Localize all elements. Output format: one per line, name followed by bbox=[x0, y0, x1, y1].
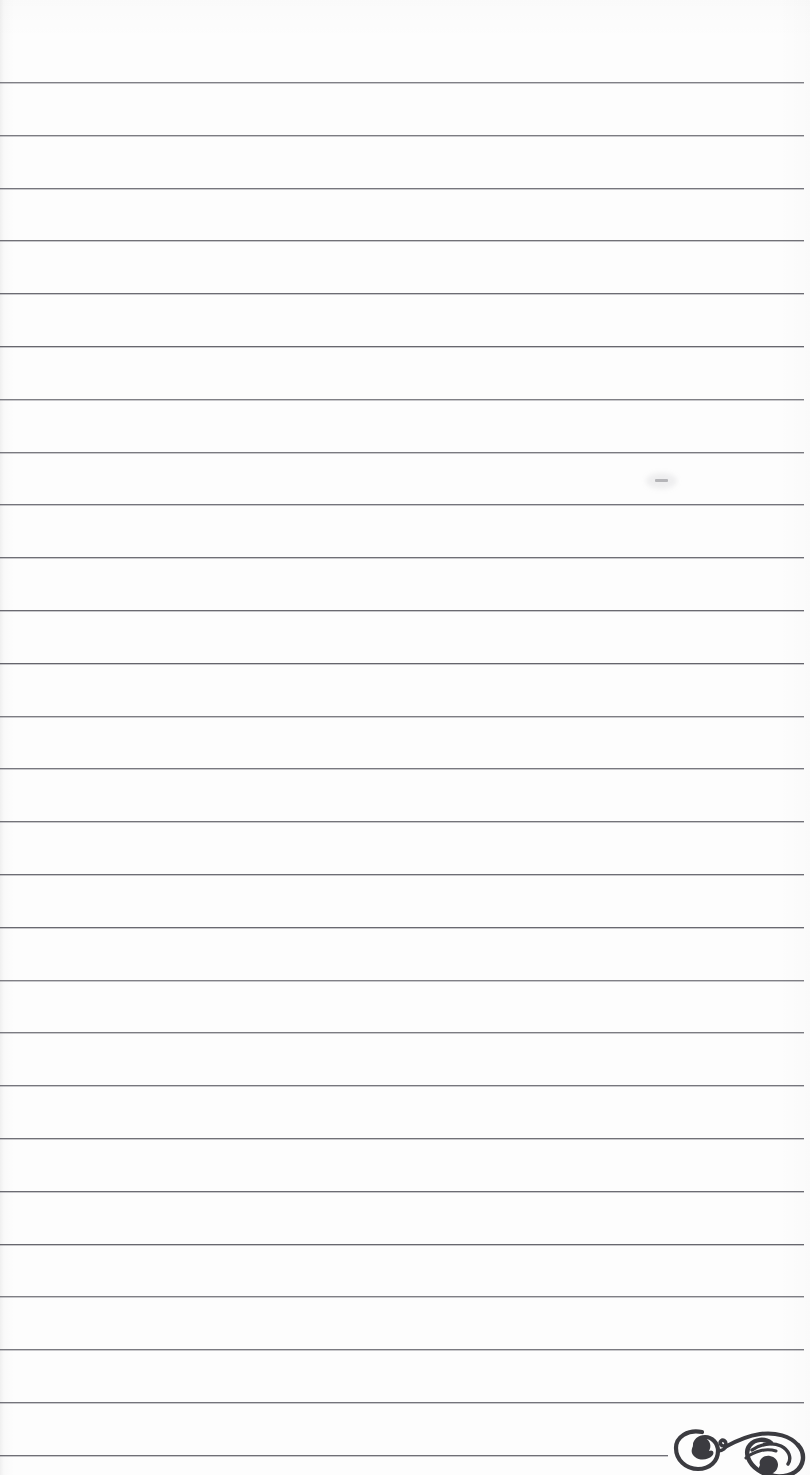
ruled-line bbox=[0, 663, 804, 664]
ruled-line bbox=[0, 293, 804, 294]
ruled-line bbox=[0, 1191, 804, 1192]
ruled-line bbox=[0, 610, 804, 611]
ruled-line bbox=[0, 927, 804, 928]
ruled-line bbox=[0, 1032, 804, 1033]
ruled-line bbox=[0, 821, 804, 822]
ruled-line bbox=[0, 135, 804, 136]
scanned-page bbox=[0, 0, 810, 1475]
ruled-line bbox=[0, 504, 804, 505]
ruled-line bbox=[0, 1349, 804, 1350]
ruled-line bbox=[0, 557, 804, 558]
ruled-line bbox=[0, 188, 804, 189]
ruled-line bbox=[0, 874, 804, 875]
ruled-line bbox=[0, 980, 804, 981]
ruled-line bbox=[0, 1085, 804, 1086]
ruled-line bbox=[0, 1455, 668, 1456]
ruled-line bbox=[0, 1402, 804, 1403]
ruled-line bbox=[0, 1138, 804, 1139]
ruled-line bbox=[0, 82, 804, 83]
ruled-line bbox=[0, 240, 804, 241]
ruled-lines-layer bbox=[0, 0, 810, 1475]
pencil-smudge-mark bbox=[655, 479, 668, 482]
ruled-line bbox=[0, 1244, 804, 1245]
ruled-line bbox=[0, 768, 804, 769]
ruled-line bbox=[0, 399, 804, 400]
ruled-line bbox=[0, 1296, 804, 1297]
ruled-line bbox=[0, 716, 804, 717]
ruled-line bbox=[0, 452, 804, 453]
ruled-line bbox=[0, 346, 804, 347]
